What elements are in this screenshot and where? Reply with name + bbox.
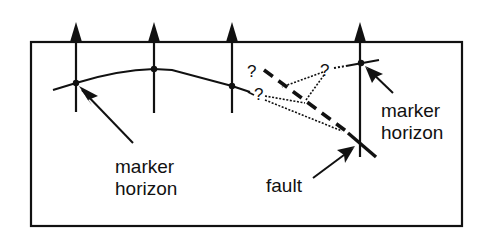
cross-section-diagram: ? ? ? marker horizon marker horizon faul… xyxy=(0,0,484,237)
left-marker-leader xyxy=(79,86,133,143)
left-marker-horizon-label-line1: marker xyxy=(115,156,175,177)
question-mark-lower-left: ? xyxy=(254,85,263,104)
question-mark-right: ? xyxy=(320,61,329,80)
right-marker-leader xyxy=(365,66,393,93)
right-marker-horizon-label-line1: marker xyxy=(381,100,441,121)
fault-solid xyxy=(348,133,376,157)
well-arrow-icon xyxy=(148,22,160,42)
left-marker-horizon-label-line2: horizon xyxy=(115,178,177,199)
question-mark-upper-left: ? xyxy=(247,62,256,81)
horizon-pick-point xyxy=(73,80,79,86)
marker-horizon-right-dotted xyxy=(334,66,346,68)
well-3 xyxy=(226,22,238,113)
correlation-alternatives xyxy=(265,72,342,131)
fault-leader xyxy=(313,146,355,178)
fault-label: fault xyxy=(266,175,303,196)
well-arrow-icon xyxy=(226,22,238,42)
horizon-pick-point xyxy=(229,83,235,89)
arrowhead-icon xyxy=(79,86,98,100)
horizon-pick-point xyxy=(358,60,364,66)
right-marker-horizon-label-line2: horizon xyxy=(381,122,443,143)
well-arrow-icon xyxy=(354,22,366,42)
well-1 xyxy=(70,22,82,112)
well-arrow-icon xyxy=(70,22,82,42)
horizon-pick-point xyxy=(151,66,157,72)
